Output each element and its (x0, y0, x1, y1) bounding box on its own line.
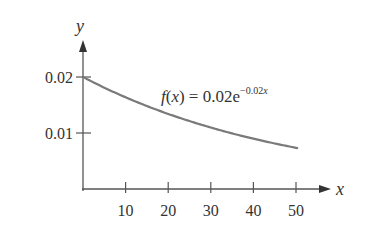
y-axis-label: y (74, 16, 84, 36)
x-ticks: 1020304050 (118, 182, 304, 219)
x-axis-arrow-icon (319, 185, 331, 193)
y-axis-arrow-icon (79, 40, 87, 52)
x-axis-label: x (335, 179, 344, 199)
chart-svg: y x 1020304050 0.010.02 f(x) = 0.02e−0.0… (0, 0, 365, 231)
y-ticks: 0.010.02 (45, 69, 91, 142)
function-annotation: f(x) = 0.02e−0.02x (161, 85, 268, 106)
x-tick-label: 30 (203, 202, 219, 219)
function-exponent: −0.02x (240, 85, 268, 96)
y-tick-label: 0.01 (45, 125, 73, 142)
x-tick-label: 40 (245, 202, 261, 219)
chart: y x 1020304050 0.010.02 f(x) = 0.02e−0.0… (0, 0, 365, 231)
x-tick-label: 50 (288, 202, 304, 219)
x-tick-label: 10 (118, 202, 134, 219)
y-axis: y (74, 16, 87, 191)
x-axis: x (82, 179, 344, 199)
x-tick-label: 20 (160, 202, 176, 219)
y-tick-label: 0.02 (45, 69, 73, 86)
